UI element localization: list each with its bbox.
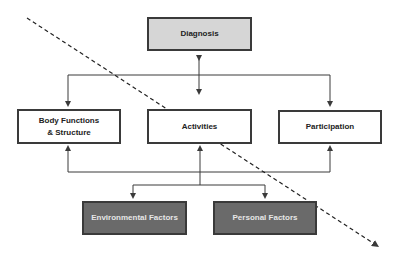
activities-label: Activities [182,121,218,133]
participation-box: Participation [278,110,382,144]
body-functions-label-line2: & Structure [47,127,91,139]
body-functions-label-line1: Body Functions [39,115,99,127]
body-functions-box: Body Functions & Structure [17,109,121,144]
environmental-factors-label: Environmental Factors [91,212,178,224]
participation-label: Participation [306,121,354,133]
diagnosis-box: Diagnosis [147,17,252,51]
diagnosis-label: Diagnosis [180,28,218,40]
personal-factors-label: Personal Factors [233,212,298,224]
icf-diagram: Diagnosis Body Functions & Structure Act… [0,0,398,255]
personal-factors-box: Personal Factors [213,201,317,235]
environmental-factors-box: Environmental Factors [82,201,187,235]
activities-box: Activities [147,109,252,144]
